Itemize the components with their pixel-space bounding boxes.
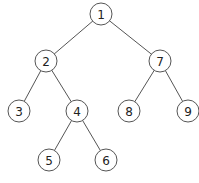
tree-node-1: 1: [90, 3, 112, 25]
tree-node-2: 2: [35, 50, 57, 72]
node-label: 1: [97, 8, 105, 22]
node-label: 9: [184, 105, 192, 119]
tree-node-7: 7: [149, 50, 171, 72]
nodes: 1 2 7 3 4 8 9 5: [8, 3, 199, 171]
node-label: 2: [42, 55, 50, 69]
tree-node-5: 5: [38, 149, 60, 171]
tree-node-6: 6: [95, 149, 117, 171]
node-label: 7: [156, 55, 164, 69]
node-label: 6: [102, 154, 110, 168]
tree-node-4: 4: [66, 100, 88, 122]
node-label: 3: [15, 105, 23, 119]
node-label: 8: [125, 105, 133, 119]
tree-diagram: 1 2 7 3 4 8 9 5: [0, 0, 199, 183]
tree-node-3: 3: [8, 100, 30, 122]
node-label: 5: [45, 154, 53, 168]
edges: [19, 14, 188, 160]
tree-node-9: 9: [177, 100, 199, 122]
node-label: 4: [73, 105, 81, 119]
tree-node-8: 8: [118, 100, 140, 122]
